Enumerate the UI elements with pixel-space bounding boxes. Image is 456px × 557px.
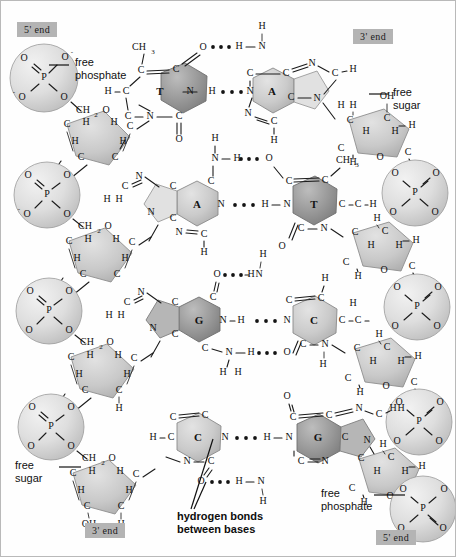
svg-text:H: H <box>77 484 84 495</box>
svg-text:H: H <box>115 193 122 204</box>
svg-text:2: 2 <box>94 111 98 119</box>
base-adenine-row2: A N N C H H C C C N N C H N H H <box>103 132 240 257</box>
svg-text:O: O <box>104 220 111 231</box>
svg-text:C: C <box>286 294 293 305</box>
svg-text:C: C <box>202 342 209 353</box>
svg-text:H: H <box>116 465 123 476</box>
svg-text:C: C <box>70 467 77 478</box>
svg-text:3: 3 <box>151 48 155 56</box>
svg-text:O: O <box>65 285 72 296</box>
svg-text:C: C <box>122 180 129 191</box>
svg-text:H: H <box>375 328 382 339</box>
svg-text:C: C <box>170 411 177 422</box>
svg-text:N: N <box>257 475 264 486</box>
svg-text:H: H <box>270 134 277 145</box>
svg-text:CH: CH <box>132 41 146 52</box>
svg-text:H: H <box>234 366 241 377</box>
svg-text:O: O <box>376 151 383 162</box>
svg-text:H: H <box>104 85 111 96</box>
svg-text:C: C <box>208 455 215 466</box>
svg-text:3: 3 <box>355 161 359 169</box>
svg-text:O: O <box>432 167 439 178</box>
svg-text:C: C <box>318 292 325 303</box>
svg-text:H: H <box>263 431 270 442</box>
svg-text:N: N <box>258 40 265 51</box>
dna-structure-svg: P O O - O - O CH2 O C C H H H H C C <box>1 1 456 557</box>
svg-text:O: O <box>20 52 27 63</box>
base-letter: C <box>310 314 318 326</box>
svg-text:C: C <box>288 91 295 102</box>
svg-text:C: C <box>384 341 391 352</box>
svg-text:N: N <box>246 85 253 96</box>
annotation-line: sugar <box>15 472 43 485</box>
svg-text:N: N <box>285 431 292 442</box>
annotation-line: free <box>393 86 421 99</box>
svg-text:C: C <box>84 500 91 511</box>
svg-text:C: C <box>172 328 179 339</box>
svg-text:H: H <box>110 116 117 127</box>
svg-text:O: O <box>389 206 396 217</box>
svg-text:C: C <box>123 85 130 96</box>
svg-text:H: H <box>389 402 396 413</box>
svg-text:H: H <box>349 99 356 110</box>
svg-text:N: N <box>313 92 320 103</box>
svg-text:O: O <box>102 104 109 115</box>
svg-text:H: H <box>414 350 421 361</box>
svg-text:H: H <box>349 63 356 74</box>
svg-text:O: O <box>435 435 442 446</box>
svg-text:O: O <box>23 208 30 219</box>
svg-text:N: N <box>320 222 327 233</box>
svg-text:C: C <box>172 296 179 307</box>
svg-text:N: N <box>221 431 228 442</box>
svg-text:N: N <box>183 455 190 466</box>
svg-text:C: C <box>68 351 75 362</box>
svg-text:P: P <box>416 415 422 426</box>
phosphate-group-right-3: P O O O O <box>386 389 452 455</box>
svg-text:C: C <box>286 175 293 186</box>
svg-text:C: C <box>176 110 183 121</box>
svg-text:C: C <box>326 409 333 420</box>
svg-text:C: C <box>133 468 140 479</box>
phosphate-group-right-2: P O O O O <box>384 274 450 340</box>
svg-text:P: P <box>420 502 426 513</box>
svg-text:H: H <box>71 135 78 146</box>
svg-text:O: O <box>106 336 113 347</box>
svg-text:C: C <box>384 112 391 123</box>
svg-text:P: P <box>48 420 54 431</box>
svg-text:N: N <box>186 85 193 96</box>
svg-text:O: O <box>391 167 398 178</box>
svg-text:C: C <box>208 175 215 186</box>
svg-text:O: O <box>175 133 182 144</box>
svg-text:H: H <box>237 314 244 325</box>
svg-text:H: H <box>115 402 122 413</box>
svg-text:C: C <box>138 64 145 75</box>
svg-text:H: H <box>82 116 89 127</box>
svg-text:H: H <box>261 198 268 209</box>
svg-text:N: N <box>283 314 290 325</box>
annotation-line: free <box>75 56 126 69</box>
svg-text:C: C <box>290 411 297 422</box>
svg-text:H: H <box>337 99 344 110</box>
svg-text:O: O <box>61 51 68 62</box>
svg-text:O: O <box>399 483 406 494</box>
svg-text:C: C <box>382 225 389 236</box>
base-letter: C <box>194 431 202 443</box>
svg-text:O: O <box>27 440 34 451</box>
svg-text:P: P <box>412 186 418 197</box>
svg-text:N: N <box>308 57 315 68</box>
svg-text:O: O <box>25 324 32 335</box>
svg-text:P: P <box>41 71 47 82</box>
svg-text:O: O <box>278 240 285 251</box>
svg-text:CH: CH <box>82 452 96 463</box>
svg-text:H: H <box>259 495 266 506</box>
svg-text:O: O <box>439 522 446 533</box>
svg-text:N: N <box>175 226 182 237</box>
svg-text:C: C <box>125 110 132 121</box>
svg-text:H: H <box>369 355 376 366</box>
base-letter: T <box>156 85 164 97</box>
annotation-line: phosphate <box>321 500 372 513</box>
base-letter: G <box>195 314 204 326</box>
svg-text:C: C <box>118 500 125 511</box>
svg-text:H: H <box>367 239 374 250</box>
svg-text:N: N <box>146 110 153 121</box>
